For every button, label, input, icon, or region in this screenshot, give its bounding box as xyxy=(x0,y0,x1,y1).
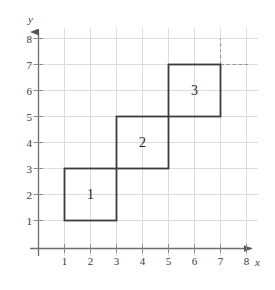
x-tick-label-4: 4 xyxy=(140,256,146,267)
x-axis-label: x xyxy=(255,257,260,268)
x-tick-label-6: 6 xyxy=(192,256,198,267)
x-tick-label-7: 7 xyxy=(218,256,224,267)
x-tick-label-5: 5 xyxy=(166,256,172,267)
y-tick-label-8: 8 xyxy=(27,33,33,44)
x-tick-label-2: 2 xyxy=(88,256,94,267)
x-tick-label-1: 1 xyxy=(62,256,68,267)
y-tick-label-5: 5 xyxy=(27,111,33,122)
coordinate-grid-figure: 1 2 3 4 5 6 7 8 1 2 3 4 5 6 7 8 x y 1 2 … xyxy=(0,0,275,290)
square-1-label: 1 xyxy=(87,188,94,202)
y-tick-label-7: 7 xyxy=(27,59,33,70)
y-tick-label-4: 4 xyxy=(27,137,33,148)
x-tick-label-3: 3 xyxy=(114,256,120,267)
square-2-label: 2 xyxy=(139,136,146,150)
x-tick-label-8: 8 xyxy=(244,256,250,267)
plot-canvas xyxy=(0,0,275,290)
y-tick-label-1: 1 xyxy=(27,215,33,226)
y-tick-label-2: 2 xyxy=(27,189,33,200)
y-tick-label-3: 3 xyxy=(27,163,33,174)
y-tick-label-6: 6 xyxy=(27,85,33,96)
y-axis-label: y xyxy=(28,14,33,25)
square-3-label: 3 xyxy=(191,84,198,98)
